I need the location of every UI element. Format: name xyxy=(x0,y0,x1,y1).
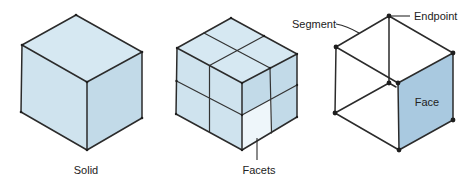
wireframe-cube: Segment Endpoint Face xyxy=(292,10,457,152)
facets-label: Facets xyxy=(242,164,276,176)
segment-label: Segment xyxy=(292,18,336,30)
faceted-cube: Facets xyxy=(175,17,298,176)
geometry-diagram: Solid Facets xyxy=(0,0,475,184)
segment-leader-line xyxy=(336,24,359,33)
face-label: Face xyxy=(415,96,439,108)
endpoint-label: Endpoint xyxy=(414,10,457,22)
solid-label: Solid xyxy=(74,164,98,176)
solid-cube: Solid xyxy=(20,14,144,176)
